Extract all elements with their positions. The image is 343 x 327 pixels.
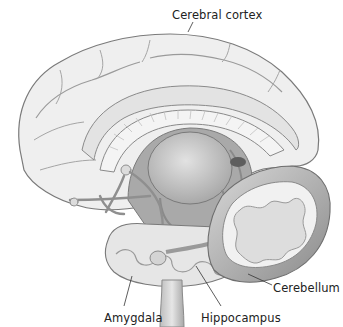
brain-illustration bbox=[0, 0, 343, 327]
label-hippocampus: Hippocampus bbox=[201, 311, 281, 325]
label-cerebellum: Cerebellum bbox=[273, 281, 340, 295]
label-cerebral-cortex: Cerebral cortex bbox=[172, 8, 262, 22]
label-amygdala: Amygdala bbox=[104, 311, 163, 325]
brainstem bbox=[160, 280, 184, 327]
